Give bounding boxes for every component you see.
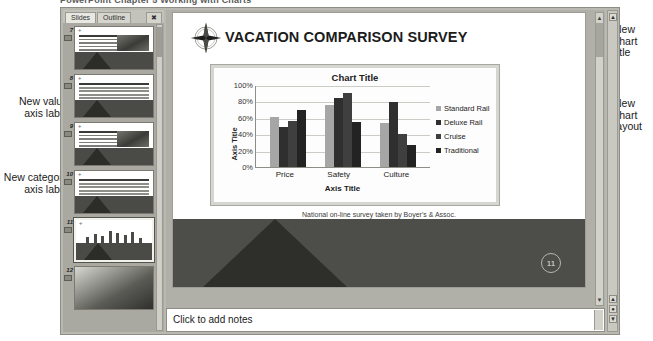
thumb-footer <box>75 52 153 69</box>
y-tick: 80% <box>238 98 253 106</box>
legend-swatch <box>436 106 441 111</box>
legend-swatch <box>436 134 441 139</box>
list-item[interactable]: 8 <box>74 74 155 118</box>
slide-thumbnail-list[interactable]: 7 8 <box>63 23 164 332</box>
bar-cruise <box>343 93 352 167</box>
thumb-content <box>75 171 153 198</box>
legend-label: Cruise <box>444 132 466 141</box>
slide-thumbnail-10[interactable] <box>74 170 154 214</box>
bar-group-price <box>270 86 306 167</box>
slide-number: 11 <box>64 219 73 226</box>
slide-thumbnail-7[interactable] <box>74 26 154 70</box>
y-tick: 0% <box>242 164 253 172</box>
bar-deluxe-rail <box>334 98 343 167</box>
previous-slide-icon[interactable]: ▲ <box>609 295 617 303</box>
scrollbar-thumb[interactable] <box>157 27 162 57</box>
chart-legend[interactable]: Standard Rail Deluxe Rail Cruise <box>436 104 489 160</box>
page-header-text: PowerPoint Chapter 5 Working with Charts <box>60 0 620 5</box>
bar-groups <box>256 86 430 167</box>
list-item[interactable]: 7 <box>74 26 155 70</box>
slide-layout-icon <box>64 179 72 185</box>
slide-layout-icon <box>64 83 72 89</box>
legend-item: Deluxe Rail <box>436 118 489 127</box>
slide-navigation-rail[interactable]: ▲ ▲ ● ▼ <box>607 10 618 332</box>
list-item[interactable]: 9 <box>74 122 155 166</box>
legend-swatch <box>436 120 441 125</box>
slide-thumbnail-9[interactable] <box>74 122 154 166</box>
thumb-image <box>117 131 149 147</box>
page-header-strip: PowerPoint Chapter 5 Working with Charts <box>60 0 620 7</box>
legend-item: Cruise <box>436 132 489 141</box>
category-axis-title[interactable]: Axis Title <box>255 184 430 193</box>
notes-scrollbar[interactable] <box>594 310 603 330</box>
bar-standard-rail <box>380 123 389 167</box>
bar-deluxe-rail <box>389 102 398 167</box>
cat-label: Price <box>276 170 294 179</box>
stage-scrollbar[interactable]: ▲ ▼ <box>595 12 604 306</box>
thumb-footer <box>75 100 153 117</box>
compass-icon: N E S W <box>189 21 223 55</box>
y-tick: 100% <box>234 82 253 90</box>
cat-label: Safety <box>327 170 350 179</box>
slide-thumbnail-11-selected[interactable] <box>74 218 154 262</box>
cat-label: Culture <box>383 170 409 179</box>
tab-slides[interactable]: Slides <box>65 12 96 23</box>
slide-layout-icon <box>64 131 72 137</box>
thumb-title <box>78 29 150 33</box>
thumb-content <box>75 27 153 54</box>
select-browse-object-icon[interactable]: ● <box>609 305 617 313</box>
y-tick: 60% <box>238 115 253 123</box>
bar-group-safety <box>325 86 361 167</box>
svg-text:E: E <box>214 37 216 41</box>
slide-number: 10 <box>64 171 73 178</box>
scroll-up-icon[interactable]: ▲ <box>609 13 617 21</box>
legend-item: Standard Rail <box>436 104 489 113</box>
list-item[interactable]: 10 <box>74 170 155 214</box>
slide-footer-graphic: 11 <box>173 219 585 287</box>
powerpoint-window: Slides Outline ✖ 7 <box>60 7 620 335</box>
chart-title[interactable]: Chart Title <box>214 72 496 83</box>
slides-pane-scrollbar[interactable] <box>156 24 163 331</box>
slide-layout-icon <box>64 35 72 41</box>
scroll-up-icon[interactable]: ▲ <box>596 14 603 22</box>
thumb-title <box>78 125 150 129</box>
scroll-down-icon[interactable]: ▼ <box>596 296 603 304</box>
slide-layout-icon <box>64 275 72 281</box>
thumb-chart <box>84 227 144 243</box>
bar-cruise <box>288 121 297 167</box>
chart-plot-area: Axis Title 0% 20% 40% 60% 80% 100% <box>214 86 496 202</box>
legend-label: Deluxe Rail <box>444 118 482 127</box>
bar-cruise <box>398 134 407 167</box>
bar-standard-rail <box>325 105 334 167</box>
bar-traditional <box>297 110 306 168</box>
thumb-title <box>78 77 150 81</box>
slide-caption: National on-line survey taken by Boyer's… <box>173 211 585 218</box>
thumb-image <box>117 35 149 51</box>
next-slide-icon[interactable]: ▼ <box>609 315 617 323</box>
list-item[interactable]: 11 <box>74 218 155 262</box>
close-pane-icon[interactable]: ✖ <box>146 12 162 23</box>
slides-pane: Slides Outline ✖ 7 <box>63 10 164 332</box>
bar-group-culture <box>380 86 416 167</box>
category-axis-labels: Price Safety Culture <box>255 170 430 179</box>
annotation-new-category-axis-label: New category axis label <box>2 172 68 195</box>
list-item[interactable]: 12 <box>74 266 155 310</box>
legend-label: Traditional <box>444 146 479 155</box>
slide-thumbnail-12[interactable] <box>74 266 154 310</box>
notes-placeholder: Click to add notes <box>173 314 253 325</box>
notes-pane[interactable]: Click to add notes <box>166 308 605 332</box>
current-slide[interactable]: N E S W VACATION COMPARISON SURVEY Chart… <box>172 12 586 288</box>
slide-number: 12 <box>64 267 73 274</box>
chart-object[interactable]: Chart Title Axis Title 0% 20% 40% 60% 80… <box>211 65 499 205</box>
page-title: VACATION COMPARISON SURVEY <box>225 29 467 45</box>
tab-outline[interactable]: Outline <box>97 12 131 23</box>
bar-traditional <box>407 145 416 167</box>
scrollbar-thumb[interactable] <box>596 23 603 57</box>
slide-layout-icon <box>64 227 72 233</box>
thumb-footer <box>75 148 153 165</box>
bar-traditional <box>352 122 361 167</box>
value-axis-ticks: 0% 20% 40% 60% 80% 100% <box>227 86 254 168</box>
thumb-footer <box>76 243 152 260</box>
slide-thumbnail-8[interactable] <box>74 74 154 118</box>
slides-pane-tabs: Slides Outline ✖ <box>63 10 164 23</box>
